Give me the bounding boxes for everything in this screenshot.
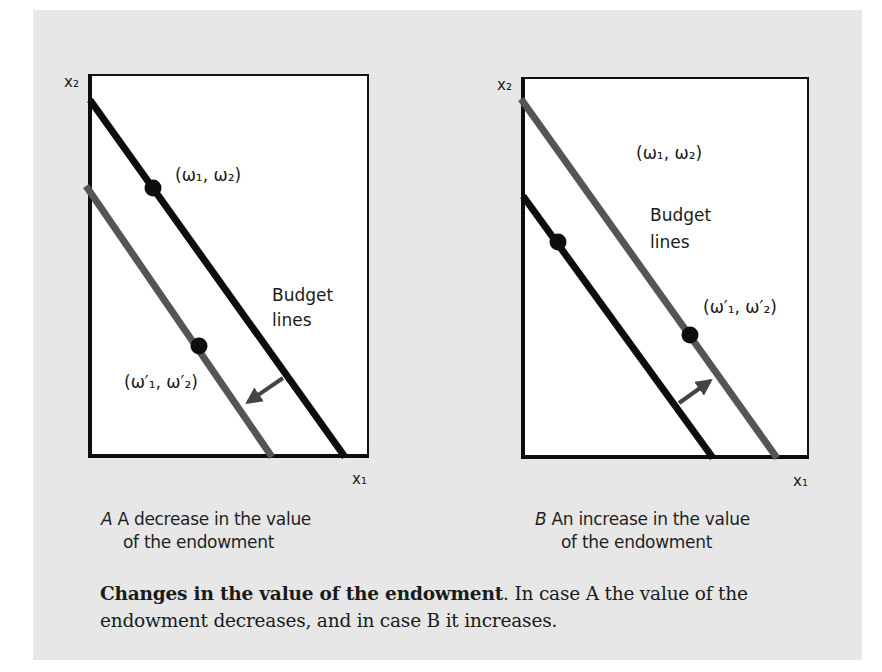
panel-b: x₂ x₁ (ω₁, ω₂) Budget lines (ω′₁, ω′₂) (497, 76, 809, 490)
panel-a: x₂ x₁ (ω₁, ω₂) (ω′₁, ω′₂) Budget lines (64, 73, 369, 488)
panel-a-endowment-point (145, 180, 162, 197)
panel-b-new-endowment-label: (ω′₁, ω′₂) (703, 297, 777, 317)
figure-caption: Changes in the value of the endowment. I… (100, 580, 820, 634)
panel-b-new-endowment-point (682, 327, 699, 344)
panel-b-plot-area (523, 78, 808, 457)
panel-a-caption-letter: A (101, 509, 112, 529)
panel-b-y-axis-label: x₂ (497, 76, 512, 94)
panel-a-new-endowment-point (191, 338, 208, 355)
panel-a-caption-line1: A decrease in the value (117, 509, 311, 529)
panel-b-caption-letter: B (535, 509, 546, 529)
panel-b-budget-label-2: lines (650, 232, 690, 252)
panel-b-endowment-point (550, 234, 567, 251)
panel-a-y-axis-label: x₂ (64, 73, 79, 91)
panel-b-endowment-label: (ω₁, ω₂) (636, 143, 702, 163)
panel-a-new-endowment-label: (ω′₁, ω′₂) (124, 372, 198, 392)
panel-a-budget-label-2: lines (272, 310, 312, 330)
panel-b-x-axis-label: x₁ (793, 472, 808, 490)
panel-b-caption-line2: of the endowment (535, 531, 750, 554)
panel-a-x-axis-label: x₁ (352, 470, 367, 488)
panel-a-caption: A A decrease in the value of the endowme… (101, 508, 311, 554)
panel-a-budget-label: Budget (272, 285, 333, 305)
panel-b-budget-label: Budget (650, 205, 711, 225)
panel-a-caption-line2: of the endowment (101, 531, 311, 554)
endowment-figure: x₂ x₁ (ω₁, ω₂) (ω′₁, ω′₂) Budget lines x… (0, 0, 882, 672)
panel-a-endowment-label: (ω₁, ω₂) (175, 165, 241, 185)
figure-caption-title: Changes in the value of the endowment (100, 583, 503, 604)
panel-b-caption-line1: An increase in the value (551, 509, 749, 529)
panel-b-caption: B An increase in the value of the endowm… (535, 508, 750, 554)
